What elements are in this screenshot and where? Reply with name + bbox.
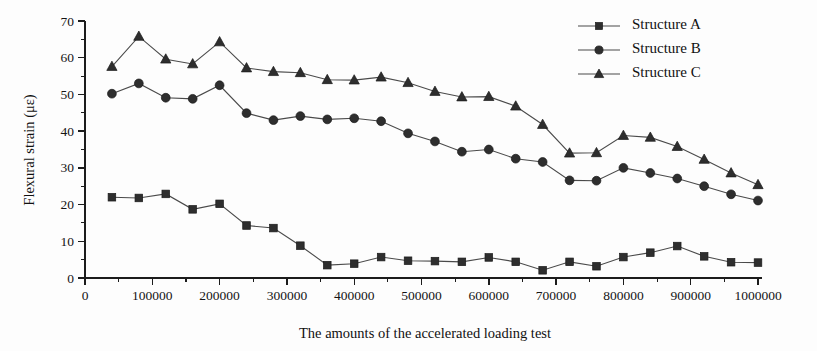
data-point-marker: [458, 258, 466, 266]
data-point-marker: [596, 23, 603, 30]
data-point-marker: [404, 257, 412, 265]
legend-item-structure-a[interactable]: Structure A: [578, 16, 701, 32]
data-point-marker: [323, 115, 332, 124]
data-point-marker: [700, 182, 709, 191]
data-point-marker: [135, 194, 143, 202]
data-point-marker: [243, 222, 251, 230]
data-point-marker: [754, 259, 762, 267]
data-point-marker: [162, 190, 170, 198]
x-tick-label: 600000: [469, 288, 510, 303]
data-point-marker: [485, 254, 493, 262]
data-point-marker: [484, 91, 494, 100]
data-point-marker: [161, 54, 171, 63]
data-point-marker: [376, 72, 386, 81]
data-point-marker: [511, 154, 520, 163]
x-axis-title: The amounts of the accelerated loading t…: [299, 325, 551, 341]
data-point-marker: [377, 253, 385, 261]
x-tick-label: 1000000: [734, 288, 782, 303]
data-point-marker: [591, 147, 601, 156]
x-tick-label: 700000: [536, 288, 577, 303]
data-point-marker: [350, 260, 358, 268]
data-point-marker: [431, 137, 440, 146]
x-tick-label: 800000: [603, 288, 644, 303]
data-point-marker: [647, 249, 655, 257]
data-point-marker: [161, 93, 170, 102]
data-point-marker: [189, 206, 197, 214]
data-point-marker: [699, 154, 709, 163]
data-point-marker: [457, 147, 466, 156]
data-point-marker: [754, 196, 763, 205]
data-point-marker: [618, 130, 628, 139]
y-tick-label: 20: [61, 197, 75, 212]
data-point-marker: [215, 81, 224, 90]
data-point-marker: [242, 109, 251, 118]
data-point-marker: [593, 262, 601, 270]
y-tick-label: 30: [61, 160, 75, 175]
x-tick-label: 900000: [670, 288, 711, 303]
data-point-marker: [377, 117, 386, 126]
y-tick-label: 10: [61, 234, 75, 249]
x-tick-label: 300000: [267, 288, 308, 303]
data-point-marker: [620, 253, 628, 261]
x-tick-label: 200000: [199, 288, 240, 303]
y-axis: 010203040506070: [61, 14, 86, 286]
data-point-marker: [619, 163, 628, 172]
data-point-marker: [595, 46, 603, 54]
data-point-marker: [566, 258, 574, 266]
y-tick-label: 60: [61, 50, 75, 65]
data-point-marker: [270, 224, 278, 232]
legend-item-structure-b[interactable]: Structure B: [578, 40, 701, 56]
data-point-marker: [700, 253, 708, 261]
legend-label: Structure C: [632, 64, 701, 80]
y-tick-label: 70: [61, 14, 75, 29]
data-point-marker: [431, 257, 439, 265]
data-point-marker: [565, 176, 574, 185]
data-point-marker: [269, 116, 278, 125]
data-point-marker: [673, 242, 681, 250]
data-point-marker: [726, 168, 736, 177]
y-tick-label: 40: [61, 124, 75, 139]
legend-item-structure-c[interactable]: Structure C: [578, 64, 701, 80]
data-point-marker: [297, 242, 305, 250]
data-point-marker: [404, 129, 413, 138]
data-point-marker: [538, 158, 547, 167]
data-point-marker: [323, 261, 331, 269]
data-point-marker: [727, 258, 735, 266]
x-tick-label: 0: [82, 288, 89, 303]
data-point-marker: [350, 114, 359, 123]
data-point-marker: [753, 179, 763, 188]
chart-figure: 010203040506070 010000020000030000040000…: [0, 0, 817, 351]
data-point-marker: [539, 266, 547, 274]
y-tick-label: 0: [67, 271, 74, 286]
data-point-marker: [134, 79, 143, 88]
x-tick-label: 100000: [132, 288, 173, 303]
data-series-1: [108, 190, 762, 274]
data-point-marker: [538, 119, 548, 128]
data-point-marker: [134, 31, 144, 40]
data-point-marker: [594, 69, 603, 78]
data-point-marker: [727, 190, 736, 199]
y-tick-label: 50: [61, 87, 75, 102]
chart-legend: Structure AStructure BStructure C: [578, 16, 701, 80]
data-point-marker: [295, 67, 305, 76]
data-point-marker: [188, 94, 197, 103]
data-point-marker: [512, 258, 520, 266]
legend-label: Structure B: [632, 40, 701, 56]
data-point-marker: [673, 174, 682, 183]
data-point-marker: [296, 112, 305, 121]
x-tick-label: 500000: [401, 288, 442, 303]
y-axis-title: Flexural strain (με): [21, 94, 38, 205]
legend-label: Structure A: [632, 16, 701, 32]
x-axis: 0100000200000300000400000500000600000700…: [82, 278, 782, 303]
series-line: [112, 36, 758, 184]
data-point-marker: [646, 169, 655, 178]
line-chart: 010203040506070 010000020000030000040000…: [0, 0, 817, 351]
data-point-marker: [108, 193, 116, 201]
x-tick-label: 400000: [334, 288, 375, 303]
data-point-marker: [108, 89, 117, 98]
data-point-marker: [592, 176, 601, 185]
data-point-marker: [216, 200, 224, 208]
data-point-marker: [214, 37, 224, 46]
data-point-marker: [484, 145, 493, 154]
